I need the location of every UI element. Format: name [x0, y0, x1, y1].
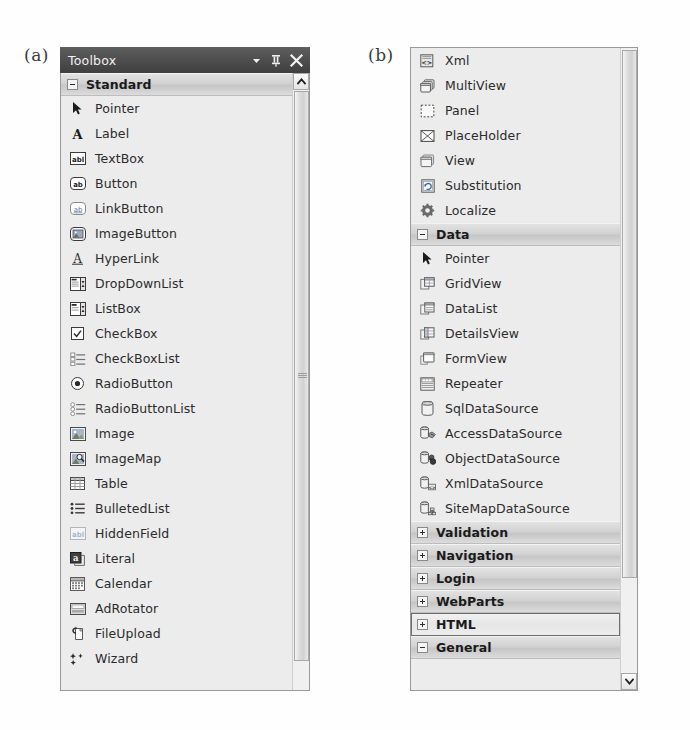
- detailsview-icon: [419, 325, 436, 342]
- close-icon[interactable]: [286, 50, 306, 70]
- category-header-standard[interactable]: Standard: [61, 73, 292, 96]
- collapse-minus-icon[interactable]: [67, 79, 78, 90]
- toolbox-item-multiview[interactable]: MultiView: [411, 73, 620, 98]
- wizard-icon: [69, 650, 86, 667]
- toolbox-item-imagemap[interactable]: ImageMap: [61, 446, 292, 471]
- label-a-icon: A: [69, 125, 86, 142]
- category-header-general[interactable]: General: [411, 636, 620, 659]
- toolbox-item-imagebutton[interactable]: ImageButton: [61, 221, 292, 246]
- toolbox-item-label[interactable]: ALabel: [61, 121, 292, 146]
- expand-plus-icon[interactable]: [417, 619, 428, 630]
- toolbox-item-table[interactable]: Table: [61, 471, 292, 496]
- toolbox-item-adrotator[interactable]: AdRotator: [61, 596, 292, 621]
- svg-text:<>: <>: [428, 485, 436, 490]
- toolbox-item-label: ImageMap: [95, 451, 161, 466]
- collapse-minus-icon[interactable]: [417, 642, 428, 653]
- toolbox-item-checkboxlist[interactable]: CheckBoxList: [61, 346, 292, 371]
- expand-plus-icon[interactable]: [417, 527, 428, 538]
- toolbox-item-repeater[interactable]: Repeater: [411, 371, 620, 396]
- toolbox-item-calendar[interactable]: Calendar: [61, 571, 292, 596]
- toolbox-item-gridview[interactable]: GridView: [411, 271, 620, 296]
- toolbox-item-wizard[interactable]: Wizard: [61, 646, 292, 671]
- toolbox-item-listbox[interactable]: ListBox: [61, 296, 292, 321]
- toolbox-item-detailsview[interactable]: DetailsView: [411, 321, 620, 346]
- sqldatasource-icon: [419, 400, 436, 417]
- toolbox-item-label: Localize: [445, 203, 496, 218]
- toolbox-item-xml[interactable]: <>Xml: [411, 48, 620, 73]
- toolbox-item-label: FormView: [445, 351, 507, 366]
- toolbox-item-hyperlink[interactable]: AHyperLink: [61, 246, 292, 271]
- svg-text:A: A: [71, 127, 83, 142]
- localize-gear-icon: [419, 202, 436, 219]
- toolbox-item-sitemapdatasource[interactable]: SiteMapDataSource: [411, 496, 620, 521]
- category-header-validation[interactable]: Validation: [411, 521, 620, 544]
- toolbox-item-accessdatasource[interactable]: AccessDataSource: [411, 421, 620, 446]
- category-header-html[interactable]: HTML: [411, 613, 620, 636]
- toolbox-item-button[interactable]: abButton: [61, 171, 292, 196]
- imagebutton-icon: [69, 225, 86, 242]
- toolbox-scrollarea-a: StandardPointerALabelablTextBoxabButtona…: [61, 73, 292, 690]
- toolbox-item-label: TextBox: [95, 151, 144, 166]
- toolbox-item-xmldatasource[interactable]: <>XmlDataSource: [411, 471, 620, 496]
- toolbox-item-image[interactable]: Image: [61, 421, 292, 446]
- toolbox-item-objectdatasource[interactable]: ObjectDataSource: [411, 446, 620, 471]
- scroll-down-arrow-icon[interactable]: [621, 673, 637, 690]
- category-header-login[interactable]: Login: [411, 567, 620, 590]
- category-header-navigation[interactable]: Navigation: [411, 544, 620, 567]
- literal-icon: a: [69, 550, 86, 567]
- toolbox-item-view[interactable]: View: [411, 148, 620, 173]
- toolbox-item-label: View: [445, 153, 475, 168]
- linkbutton-icon: ab: [69, 200, 86, 217]
- toolbox-item-literal[interactable]: aLiteral: [61, 546, 292, 571]
- toolbox-item-label: Button: [95, 176, 137, 191]
- figure-part-label-a: (a): [24, 45, 49, 65]
- category-header-webparts[interactable]: WebParts: [411, 590, 620, 613]
- toolbox-item-checkbox[interactable]: CheckBox: [61, 321, 292, 346]
- collapse-minus-icon[interactable]: [417, 229, 428, 240]
- hyperlink-icon: A: [69, 250, 86, 267]
- toolbox-item-hiddenfield[interactable]: ablHiddenField: [61, 521, 292, 546]
- toolbox-item-label: LinkButton: [95, 201, 163, 216]
- pushpin-icon[interactable]: [266, 50, 286, 70]
- scrollbar-grip-icon: [298, 373, 307, 378]
- toolbox-item-localize[interactable]: Localize: [411, 198, 620, 223]
- scroll-up-arrow-icon[interactable]: [293, 73, 309, 90]
- svg-text:a: a: [73, 552, 79, 562]
- expand-plus-icon[interactable]: [417, 596, 428, 607]
- toolbox-item-dropdownlist[interactable]: DropDownList: [61, 271, 292, 296]
- toolbox-item-label: CheckBox: [95, 326, 158, 341]
- expand-plus-icon[interactable]: [417, 550, 428, 561]
- toolbox-item-sqldatasource[interactable]: SqlDataSource: [411, 396, 620, 421]
- category-label: Standard: [86, 77, 152, 92]
- toolbox-item-panel[interactable]: Panel: [411, 98, 620, 123]
- adrotator-icon: [69, 600, 86, 617]
- toolbox-item-formview[interactable]: FormView: [411, 346, 620, 371]
- toolbox-item-label: Wizard: [95, 651, 138, 666]
- toolbox-item-bulletedlist[interactable]: BulletedList: [61, 496, 292, 521]
- toolbox-item-radiobutton[interactable]: RadioButton: [61, 371, 292, 396]
- toolbox-item-pointer[interactable]: Pointer: [61, 96, 292, 121]
- toolbox-item-label: Repeater: [445, 376, 503, 391]
- category-label: Login: [436, 571, 475, 586]
- expand-plus-icon[interactable]: [417, 573, 428, 584]
- toolbox-item-radiobuttonlist[interactable]: RadioButtonList: [61, 396, 292, 421]
- toolbox-item-pointer[interactable]: Pointer: [411, 246, 620, 271]
- toolbox-item-fileupload[interactable]: FileUpload: [61, 621, 292, 646]
- toolbox-item-substitution[interactable]: Substitution: [411, 173, 620, 198]
- toolbox-item-datalist[interactable]: DataList: [411, 296, 620, 321]
- sitemapdatasource-icon: [419, 500, 436, 517]
- toolbox-item-label: HyperLink: [95, 251, 159, 266]
- placeholder-icon: [419, 127, 436, 144]
- scrollbar-thumb-a[interactable]: [294, 91, 309, 661]
- category-label: WebParts: [436, 594, 504, 609]
- toolbox-item-placeholder[interactable]: PlaceHolder: [411, 123, 620, 148]
- toolbox-item-textbox[interactable]: ablTextBox: [61, 146, 292, 171]
- category-header-data[interactable]: Data: [411, 223, 620, 246]
- chevron-down-icon[interactable]: [246, 50, 266, 70]
- toolbox-item-linkbutton[interactable]: abLinkButton: [61, 196, 292, 221]
- vertical-scrollbar-a[interactable]: [292, 73, 309, 690]
- scrollbar-thumb-b[interactable]: [622, 50, 637, 578]
- toolbox-item-label: RadioButton: [95, 376, 173, 391]
- category-label: Validation: [436, 525, 508, 540]
- vertical-scrollbar-b[interactable]: [620, 48, 637, 690]
